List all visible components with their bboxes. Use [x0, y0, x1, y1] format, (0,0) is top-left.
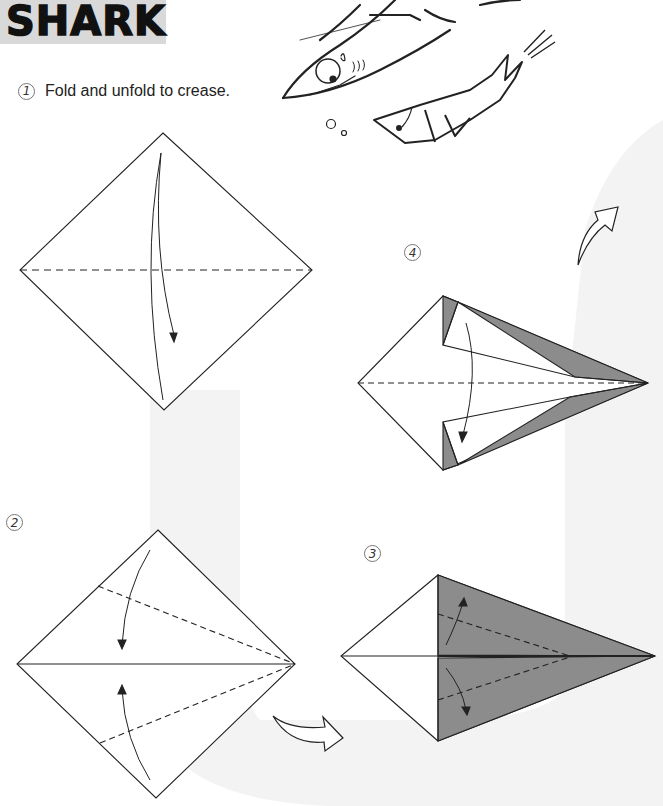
turn-over-arrow-icon	[578, 207, 618, 265]
small-shark-illustration	[374, 30, 555, 143]
next-step-arrow-icon	[273, 716, 343, 751]
shark-illustration	[283, 0, 520, 136]
step-3-diagram	[341, 575, 655, 741]
step-1-diagram	[20, 133, 312, 410]
step-2-diagram	[17, 530, 343, 798]
step-4-diagram	[358, 207, 648, 470]
